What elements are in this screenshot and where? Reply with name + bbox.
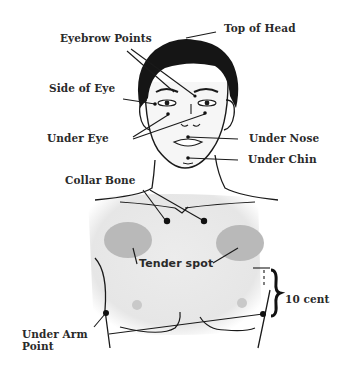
body-illustration bbox=[0, 0, 343, 376]
label-eyebrow-points: Eyebrow Points bbox=[60, 32, 152, 44]
nipple-right bbox=[237, 298, 247, 308]
dot-under-eye-right bbox=[203, 111, 207, 115]
dot-under-arm-right bbox=[260, 311, 266, 317]
right-eye bbox=[198, 100, 216, 106]
dot-collar-bone-right bbox=[201, 218, 207, 224]
label-under-arm-line2: Point bbox=[22, 340, 88, 352]
label-under-arm: Under Arm Point bbox=[22, 328, 88, 352]
left-eye bbox=[158, 100, 176, 106]
dot-under-eye-left bbox=[166, 112, 170, 116]
label-collar-bone: Collar Bone bbox=[65, 174, 136, 186]
dot-under-nose bbox=[186, 135, 190, 139]
label-under-arm-line1: Under Arm bbox=[22, 328, 88, 340]
label-tender-spot: Tender spot bbox=[139, 258, 213, 270]
label-top-of-head: Top of Head bbox=[224, 22, 296, 34]
dot-collar-bone-left bbox=[164, 218, 170, 224]
tender-spot-left bbox=[104, 222, 152, 258]
label-ten-cent: 10 cent bbox=[285, 293, 330, 305]
dot-side-of-eye bbox=[153, 102, 157, 106]
label-under-eye: Under Eye bbox=[47, 132, 109, 144]
dot-under-chin bbox=[186, 156, 190, 160]
nipple-left bbox=[132, 300, 142, 310]
dot-under-arm-left bbox=[103, 310, 109, 316]
label-under-nose: Under Nose bbox=[249, 132, 319, 144]
ten-cent-bracket bbox=[271, 270, 280, 316]
dot-eyebrow bbox=[193, 94, 196, 97]
tapping-points-diagram: Top of Head Eyebrow Points Side of Eye U… bbox=[0, 0, 343, 376]
label-under-chin: Under Chin bbox=[248, 153, 317, 165]
tender-spot-right bbox=[216, 225, 264, 261]
label-side-of-eye: Side of Eye bbox=[49, 82, 115, 94]
